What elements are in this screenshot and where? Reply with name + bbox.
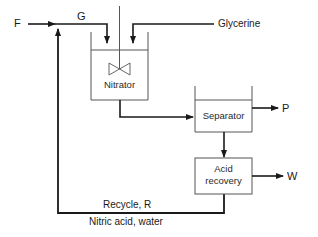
acid-recovery-label-line2: recovery: [195, 175, 252, 187]
separator-label: Separator: [195, 110, 252, 122]
nitrator-outlet-stream: [120, 100, 193, 117]
recycle-r-label: Recycle, R: [103, 200, 151, 210]
combined-feed-g-stream: [55, 24, 107, 43]
acid-recovery-label: Acid recovery: [195, 163, 252, 187]
glycerine-label: Glycerine: [218, 19, 260, 29]
product-p-label: P: [282, 103, 289, 114]
combined-feed-g-label: G: [77, 11, 86, 22]
acid-recovery-label-line1: Acid: [195, 163, 252, 175]
recycle-composition-label: Nitric acid, water: [89, 217, 163, 227]
waste-w-label: W: [287, 171, 297, 182]
process-flow-diagram: [0, 0, 318, 237]
glycerine-stream: [133, 24, 214, 43]
nitrator-label: Nitrator: [91, 79, 148, 91]
feed-f-label: F: [14, 18, 21, 29]
separator-vessel: [195, 86, 252, 132]
